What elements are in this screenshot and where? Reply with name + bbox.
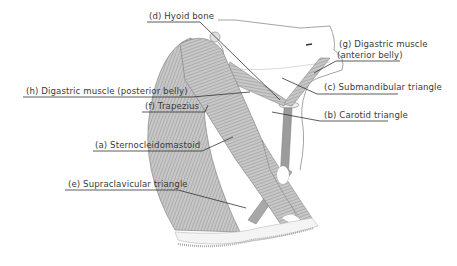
label-submandibular-triangle: (c) Submandibular triangle xyxy=(324,82,442,92)
label-digastric-anterior-line1: (g) Digastric muscle xyxy=(339,39,428,49)
label-digastric-posterior: (h) Digastric muscle (posterior belly) xyxy=(26,86,188,96)
label-trapezius: (f) Trapezius xyxy=(145,101,199,111)
label-carotid-triangle: (b) Carotid triangle xyxy=(324,110,408,120)
label-sternocleidomastoid: (a) Sternocleidomastoid xyxy=(95,140,200,150)
label-hyoid-bone: (d) Hyoid bone xyxy=(149,11,214,21)
label-supraclavicular-triangle: (e) Supraclavicular triangle xyxy=(68,179,188,189)
label-digastric-anterior-line2: (anterior belly) xyxy=(337,50,403,60)
